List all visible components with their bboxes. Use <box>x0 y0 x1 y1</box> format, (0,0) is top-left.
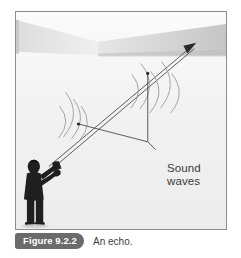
leader-anchor-upper <box>146 72 149 75</box>
person-shadow <box>21 224 49 228</box>
canyon-edge-left <box>16 20 19 54</box>
leader-anchor-lower <box>77 122 80 125</box>
echo-illustration <box>16 12 226 229</box>
illustration-frame: Sound waves <box>15 11 227 230</box>
figure-number-tag: Figure 9.2.2 <box>15 233 84 249</box>
sound-waves-label: Sound waves <box>167 162 227 188</box>
caption-bar: Figure 9.2.2 An echo. <box>15 232 227 250</box>
figure-container: Sound waves Figure 9.2.2 An echo. <box>0 0 241 258</box>
figure-caption-text: An echo. <box>93 236 132 247</box>
